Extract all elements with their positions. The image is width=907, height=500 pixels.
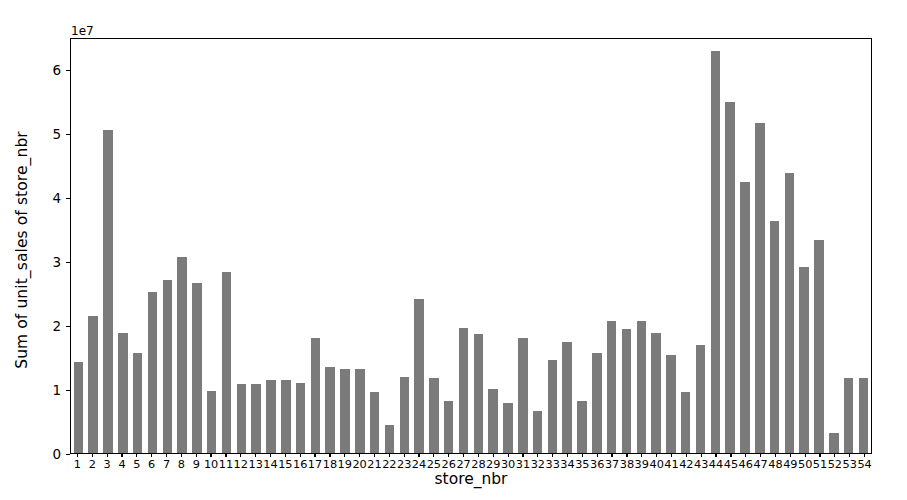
bar[interactable]	[785, 173, 794, 453]
bar-slot	[175, 39, 190, 453]
x-tick-mark	[389, 453, 390, 457]
bar[interactable]	[696, 345, 705, 453]
x-tick-mark	[730, 453, 731, 457]
x-tick-mark	[701, 453, 702, 457]
bar[interactable]	[207, 391, 216, 453]
bar[interactable]	[133, 353, 142, 453]
bar-slot	[293, 39, 308, 453]
bar[interactable]	[385, 425, 394, 453]
bar-slot	[397, 39, 412, 453]
bar[interactable]	[844, 378, 853, 453]
bar[interactable]	[533, 411, 542, 453]
bar[interactable]	[355, 369, 364, 453]
x-tick-mark	[522, 453, 523, 457]
y-tick-label: 3	[52, 253, 61, 271]
x-tick-mark	[314, 453, 315, 457]
x-tick-mark	[805, 453, 806, 457]
bar-slot	[738, 39, 753, 453]
bar[interactable]	[740, 182, 749, 453]
bar[interactable]	[725, 102, 734, 453]
bar-slot	[515, 39, 530, 453]
bar[interactable]	[651, 333, 660, 453]
bar[interactable]	[429, 378, 438, 453]
bar[interactable]	[622, 329, 631, 453]
bar[interactable]	[829, 433, 838, 453]
bar[interactable]	[548, 360, 557, 453]
bar-slot	[575, 39, 590, 453]
x-tick-mark	[181, 453, 182, 457]
x-tick-mark	[626, 453, 627, 457]
x-tick-mark	[641, 453, 642, 457]
bar-slot	[664, 39, 679, 453]
x-tick-mark	[433, 453, 434, 457]
bar-slot	[219, 39, 234, 453]
bar[interactable]	[637, 321, 646, 453]
x-tick-mark	[374, 453, 375, 457]
bar[interactable]	[503, 403, 512, 453]
bar-slot	[530, 39, 545, 453]
bar[interactable]	[666, 355, 675, 453]
bar[interactable]	[325, 367, 334, 453]
x-tick-mark	[136, 453, 137, 457]
bar[interactable]	[814, 240, 823, 453]
bar[interactable]	[103, 130, 112, 453]
bar-slot	[427, 39, 442, 453]
bar[interactable]	[592, 353, 601, 453]
bar[interactable]	[459, 328, 468, 453]
x-axis-label: store_nbr	[70, 470, 872, 488]
bar[interactable]	[296, 383, 305, 453]
x-tick-mark	[151, 453, 152, 457]
bar[interactable]	[859, 378, 868, 453]
x-tick-mark	[611, 453, 612, 457]
bar[interactable]	[711, 51, 720, 453]
bar-slot	[264, 39, 279, 453]
bar[interactable]	[163, 280, 172, 453]
bar[interactable]	[251, 384, 260, 453]
bar[interactable]	[237, 384, 246, 453]
bar[interactable]	[311, 338, 320, 453]
bar-slot	[204, 39, 219, 453]
y-axis-offset-text: 1e7	[71, 24, 94, 38]
bar[interactable]	[400, 377, 409, 453]
bar[interactable]	[340, 369, 349, 453]
x-tick-mark	[270, 453, 271, 457]
bar-slot	[486, 39, 501, 453]
x-tick-mark	[344, 453, 345, 457]
bar[interactable]	[755, 123, 764, 453]
x-tick-mark	[790, 453, 791, 457]
y-tick-label: 2	[52, 317, 61, 335]
bar-slot	[71, 39, 86, 453]
bar[interactable]	[281, 380, 290, 453]
y-tick-mark	[66, 390, 70, 391]
bar[interactable]	[74, 362, 83, 453]
bar-slot	[338, 39, 353, 453]
bar[interactable]	[444, 401, 453, 453]
bar[interactable]	[562, 342, 571, 453]
bar[interactable]	[799, 267, 808, 453]
bar[interactable]	[577, 401, 586, 453]
x-tick-mark	[329, 453, 330, 457]
bar[interactable]	[518, 338, 527, 453]
bar[interactable]	[88, 316, 97, 453]
bar[interactable]	[192, 283, 201, 453]
y-tick-mark	[66, 262, 70, 263]
bar[interactable]	[118, 333, 127, 453]
bar[interactable]	[770, 221, 779, 453]
bar[interactable]	[370, 392, 379, 453]
bar[interactable]	[222, 272, 231, 453]
bar[interactable]	[414, 299, 423, 453]
bar[interactable]	[681, 392, 690, 453]
bar[interactable]	[266, 380, 275, 453]
y-tick-mark	[66, 70, 70, 71]
bar[interactable]	[177, 257, 186, 453]
bar-slot	[323, 39, 338, 453]
bar[interactable]	[148, 292, 157, 453]
y-tick-label: 4	[52, 189, 61, 207]
y-axis-label: Sum of unit_sales of store_nbr	[8, 0, 36, 500]
bar-slot	[782, 39, 797, 453]
bar[interactable]	[488, 389, 497, 453]
bar-slot	[723, 39, 738, 453]
bar[interactable]	[474, 334, 483, 453]
bar-slot	[190, 39, 205, 453]
bar[interactable]	[607, 321, 616, 453]
